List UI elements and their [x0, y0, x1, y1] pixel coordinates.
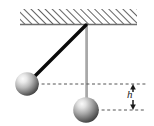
pendulum-diagram-canvas: [0, 0, 154, 126]
ceiling-hatching: [20, 9, 137, 24]
rest-bob-sphere: [73, 97, 99, 123]
dimension-arrowhead-down: [130, 105, 136, 110]
vertical-rest-rod: [85, 25, 88, 102]
pendulum-rod-line: [28, 25, 86, 83]
ceiling-support: [20, 9, 137, 25]
displaced-bob-sphere: [15, 72, 39, 96]
height-label: h: [127, 89, 133, 100]
vertical-rod-body: [85, 25, 88, 102]
pendulum-rod: [28, 25, 86, 83]
rest-bob: [73, 97, 99, 123]
displaced-bob: [15, 72, 39, 96]
pendulum-diagram: h: [0, 0, 154, 126]
